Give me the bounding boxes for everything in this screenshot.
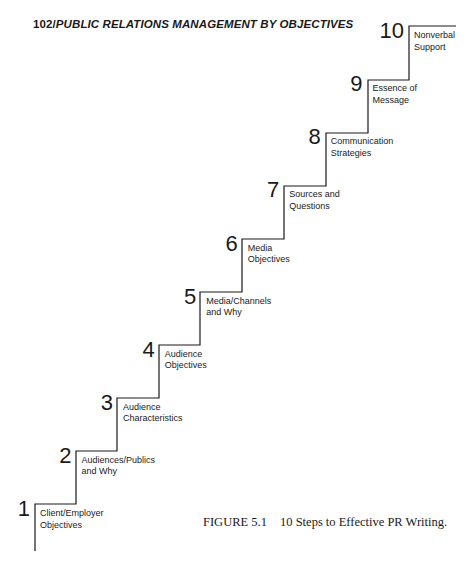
- step-number: 4: [120, 339, 155, 361]
- step-label: Audience Objectives: [165, 349, 207, 372]
- step-number: 9: [327, 73, 362, 95]
- figure-label: FIGURE 5.1: [203, 515, 267, 529]
- figure-caption: FIGURE 5.1 10 Steps to Effective PR Writ…: [203, 515, 447, 530]
- step-label: Client/Employer Objectives: [40, 508, 104, 531]
- step-label: Communication Strategies: [331, 136, 394, 159]
- step-label: Nonverbal Support: [414, 30, 455, 53]
- step-number: 7: [244, 179, 279, 201]
- figure-title: 10 Steps to Effective PR Writing.: [280, 515, 447, 529]
- step-number: 8: [286, 126, 321, 148]
- step-label: Media/Channels and Why: [206, 296, 271, 319]
- step-label: Audiences/Publics and Why: [82, 455, 156, 478]
- step-label: Audience Characteristics: [123, 402, 183, 425]
- step-number: 10: [369, 20, 404, 42]
- step-label: Essence of Message: [372, 83, 417, 106]
- step-label: Media Objectives: [248, 243, 290, 266]
- step-number: 1: [0, 498, 30, 520]
- step-number: 5: [161, 286, 196, 308]
- step-number: 3: [78, 392, 113, 414]
- step-number: 6: [203, 233, 238, 255]
- step-number: 2: [37, 445, 72, 467]
- step-label: Sources and Questions: [289, 189, 340, 212]
